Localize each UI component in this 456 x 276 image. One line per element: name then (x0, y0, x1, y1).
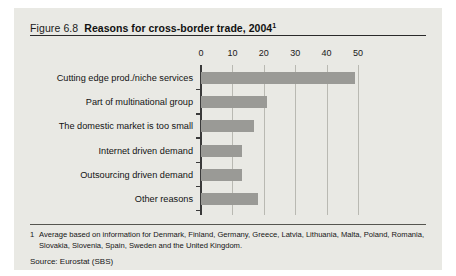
footnote-text: Average based on information for Denmark… (39, 230, 430, 251)
category-label: The domestic market is too small (59, 121, 193, 131)
footer-divider (30, 224, 426, 225)
y-axis-tick (196, 137, 201, 138)
y-axis-tick (196, 162, 201, 163)
chart-bar (201, 96, 267, 108)
gridline (295, 65, 296, 215)
x-axis-tick-label: 50 (353, 48, 363, 58)
source-line: Source: Eurostat (SBS) (30, 257, 113, 266)
category-label: Cutting edge prod./niche services (57, 73, 193, 83)
figure-card: Figure 6.8Reasons for cross-border trade… (14, 8, 442, 270)
footnote-marker: 1 (30, 230, 34, 241)
chart-bar (201, 145, 242, 157)
x-axis-tick-label: 0 (198, 48, 203, 58)
footnote: 1 Average based on information for Denma… (30, 230, 430, 251)
y-axis-tick (196, 210, 201, 211)
chart-bar (201, 193, 258, 205)
y-axis-tick (196, 113, 201, 114)
x-axis-tick-label: 40 (322, 48, 332, 58)
category-label: Internet driven demand (99, 146, 194, 156)
bar-chart: 01020304050 Cutting edge prod./niche ser… (14, 48, 442, 220)
y-axis-tick (196, 89, 201, 90)
gridline (327, 65, 328, 215)
category-label: Outsourcing driven demand (80, 170, 193, 180)
chart-bar (201, 72, 355, 84)
figure-number: Figure 6.8 (30, 22, 78, 34)
chart-bar (201, 120, 254, 132)
x-axis-tick-label: 20 (259, 48, 269, 58)
gridline (358, 65, 359, 215)
chart-bar (201, 169, 242, 181)
category-label: Other reasons (135, 194, 193, 204)
figure-title-row: Figure 6.8Reasons for cross-border trade… (30, 18, 276, 36)
y-axis-tick (196, 186, 201, 187)
figure-title-superscript: 1 (272, 22, 276, 29)
gridline (264, 65, 265, 215)
category-label: Part of multinational group (86, 97, 193, 107)
page-title: Reasons for cross-border trade, 20041 (84, 22, 276, 34)
figure-title-text: Reasons for cross-border trade, 2004 (84, 22, 272, 34)
x-axis-tick-label: 30 (290, 48, 300, 58)
chart-plot-area (14, 65, 442, 215)
x-axis-tick-labels: 01020304050 (14, 48, 442, 64)
x-axis-tick-label: 10 (227, 48, 237, 58)
title-divider (30, 35, 426, 36)
